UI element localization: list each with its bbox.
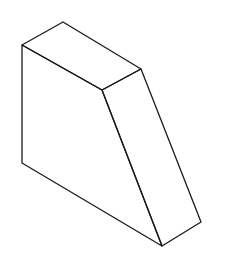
wedge-diagram xyxy=(0,0,230,264)
wedge-prism-drawing xyxy=(0,0,230,264)
